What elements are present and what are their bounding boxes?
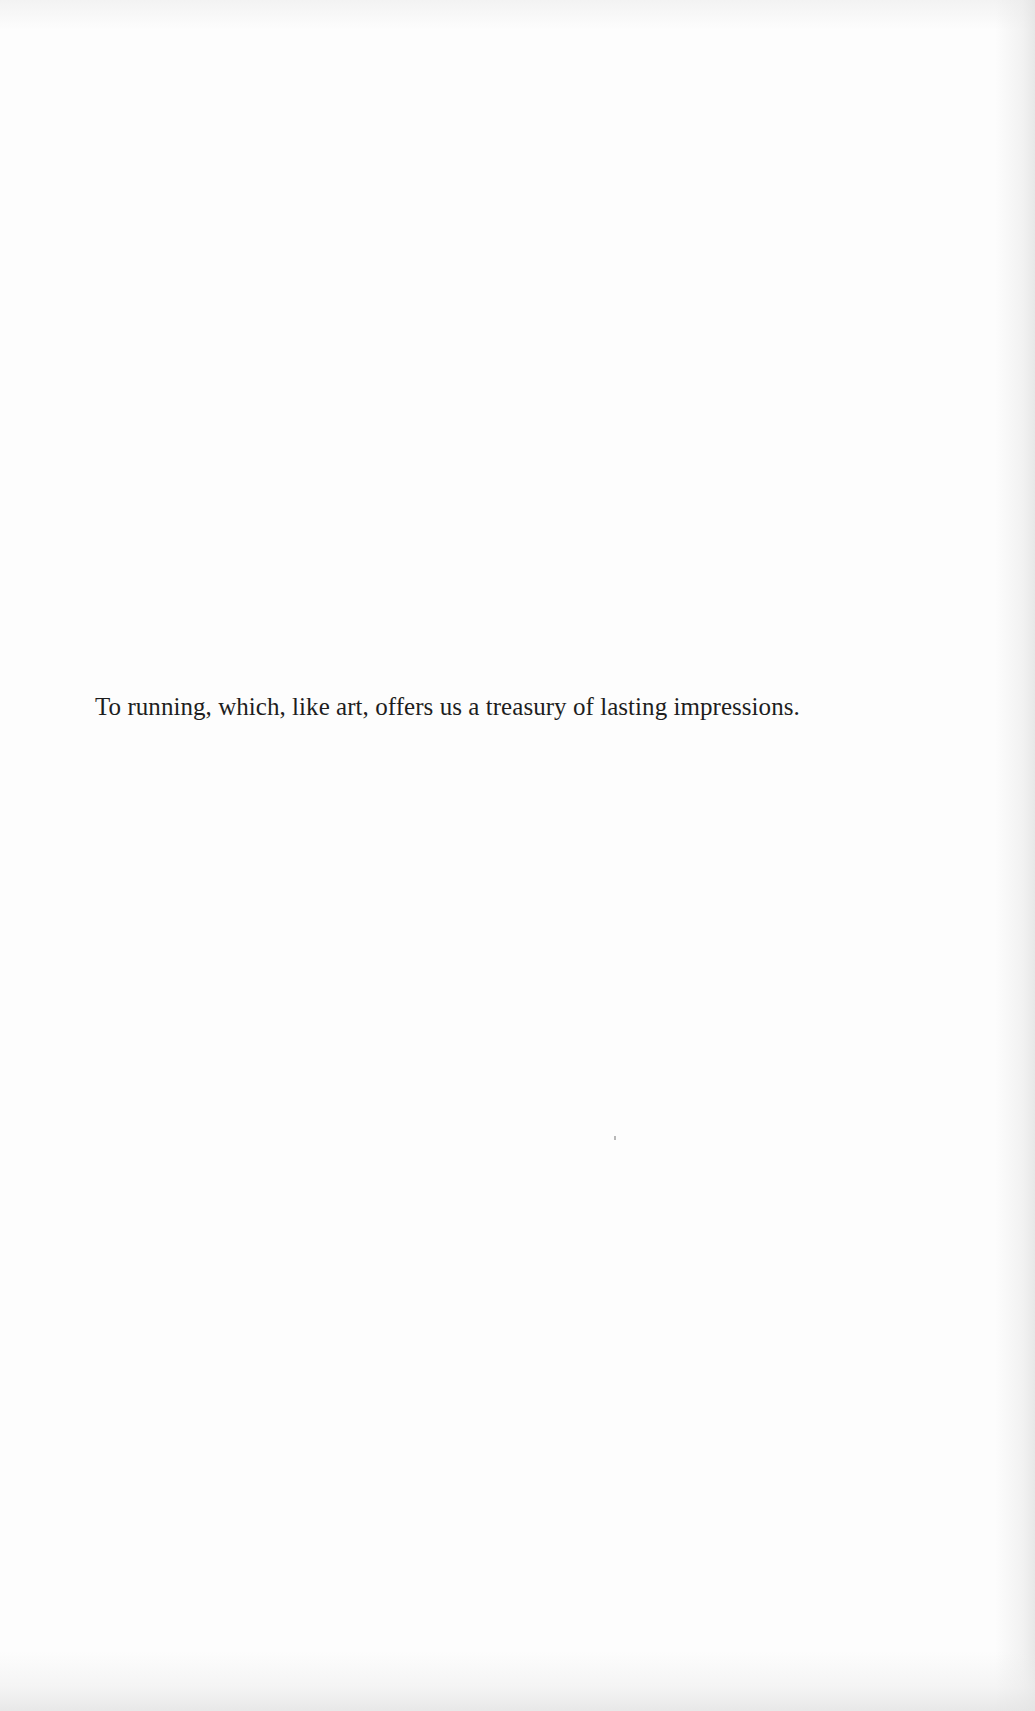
book-page: To running, which, like art, offers us a… [0, 0, 1035, 1711]
dedication-text: To running, which, like art, offers us a… [95, 691, 800, 723]
scan-shadow-right [995, 0, 1035, 1711]
scan-shadow-bottom [0, 1651, 1035, 1711]
scan-shadow-top [0, 0, 1035, 30]
scan-artifact [614, 1136, 616, 1140]
